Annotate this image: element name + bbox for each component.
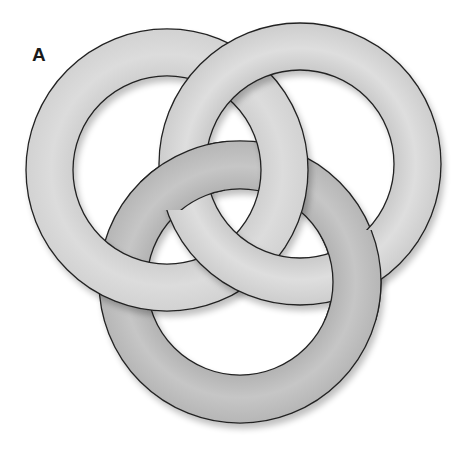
- rings-diagram: [0, 0, 461, 452]
